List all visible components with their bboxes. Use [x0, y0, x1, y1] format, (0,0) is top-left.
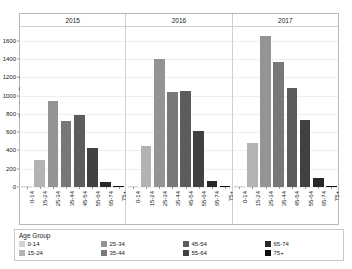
x-tick-label: 15-24	[149, 191, 155, 206]
facet-strip-row: 2015 2016 2017	[20, 14, 338, 27]
legend-item-label: 35-44	[110, 250, 125, 256]
bar[interactable]	[48, 101, 59, 187]
legend-item-label: 55-64	[192, 250, 207, 256]
x-tick-mark	[279, 187, 280, 189]
x-tick-label: 65-74	[214, 191, 220, 206]
y-tick-mark	[17, 132, 19, 133]
y-tick-label: 1200	[3, 74, 16, 80]
bar[interactable]	[273, 62, 284, 187]
y-tick-mark	[17, 59, 19, 60]
legend-item[interactable]: 45-54	[183, 241, 207, 247]
y-tick-mark	[17, 40, 19, 41]
bar[interactable]	[313, 178, 324, 187]
y-tick-mark	[17, 150, 19, 151]
y-tick-mark	[17, 187, 19, 188]
y-tick-label: 200	[6, 166, 16, 172]
x-tick-label: 15-24	[255, 191, 261, 206]
x-tick-label: 25-34	[162, 191, 168, 206]
bar[interactable]	[300, 120, 311, 187]
legend-swatch-icon	[183, 250, 189, 256]
bar[interactable]	[74, 115, 85, 187]
legend-swatch-icon	[19, 250, 25, 256]
facet-strip-label: 2017	[278, 17, 292, 24]
y-tick-mark	[17, 77, 19, 78]
y-tick-label: 400	[6, 147, 16, 153]
bar[interactable]	[34, 160, 45, 187]
x-tick-mark	[252, 187, 253, 189]
x-tick-label: 35-44	[175, 191, 181, 206]
x-tick-label: 75+	[334, 191, 340, 201]
x-tick-label: 55-64	[95, 191, 101, 206]
x-tick-mark	[292, 187, 293, 189]
x-tick-mark	[159, 187, 160, 189]
bar[interactable]	[61, 121, 72, 187]
x-tick-mark	[92, 187, 93, 189]
legend-swatch-icon	[265, 250, 271, 256]
y-tick-label: 0	[13, 184, 16, 190]
bar[interactable]	[260, 36, 271, 187]
legend-swatch-icon	[183, 241, 189, 247]
x-tick-label: 0-14	[242, 191, 248, 203]
x-tick-mark	[212, 187, 213, 189]
x-tick-mark	[186, 187, 187, 189]
legend-item[interactable]: 25-34	[101, 241, 125, 247]
facet-strip-label: 2015	[65, 17, 79, 24]
legend-item-label: 25-34	[110, 241, 125, 247]
legend-item-label: 0-14	[28, 241, 40, 247]
facet-panel-2017: 0-1415-2425-3435-4445-5455-6465-7475+	[233, 27, 338, 224]
bar[interactable]	[193, 131, 204, 187]
y-tick-label: 1400	[3, 56, 16, 62]
bar[interactable]	[180, 91, 191, 187]
x-tick-mark	[27, 187, 28, 189]
bar-group	[126, 27, 231, 187]
legend-item[interactable]: 35-44	[101, 250, 125, 256]
legend-item[interactable]: 55-64	[183, 250, 207, 256]
x-tick-mark	[146, 187, 147, 189]
bar[interactable]	[247, 143, 258, 187]
x-tick-mark	[119, 187, 120, 189]
legend-item-label: 65-74	[274, 241, 289, 247]
facet-panel-2015: 0-1415-2425-3435-4445-5455-6465-7475+	[20, 27, 126, 224]
x-tick-label: 0-14	[135, 191, 141, 203]
bar[interactable]	[87, 148, 98, 187]
x-tick-label: 25-34	[55, 191, 61, 206]
bar-group	[233, 27, 338, 187]
x-tick-mark	[318, 187, 319, 189]
bar[interactable]	[167, 92, 178, 187]
x-tick-label: 55-64	[308, 191, 314, 206]
y-tick-mark	[17, 168, 19, 169]
legend-swatch-icon	[101, 250, 107, 256]
legend-swatch-icon	[19, 241, 25, 247]
facet-panels: 0-1415-2425-3435-4445-5455-6465-7475+0-1…	[20, 27, 338, 224]
bar[interactable]	[154, 59, 165, 187]
legend-item[interactable]: 0-14	[19, 241, 40, 247]
x-tick-mark	[53, 187, 54, 189]
x-tick-mark	[305, 187, 306, 189]
x-tick-label: 65-74	[321, 191, 327, 206]
x-tick-mark	[133, 187, 134, 189]
chart-figure: 2015 2016 2017 Overdose Deaths 020040060…	[0, 0, 352, 269]
y-tick-label: 600	[6, 129, 16, 135]
x-tick-mark	[239, 187, 240, 189]
x-tick-mark	[331, 187, 332, 189]
legend-item[interactable]: 65-74	[265, 241, 289, 247]
x-tick-label: 65-74	[108, 191, 114, 206]
legend-swatch-icon	[265, 241, 271, 247]
y-axis-ticks: 02004006008001000120014001600	[0, 27, 19, 187]
x-tick-label: 45-54	[294, 191, 300, 206]
legend-item[interactable]: 75+	[265, 250, 284, 256]
legend-item-label: 45-54	[192, 241, 207, 247]
bar[interactable]	[287, 88, 298, 187]
legend-item[interactable]: 15-24	[19, 250, 43, 256]
x-tick-mark	[172, 187, 173, 189]
x-tick-label: 45-54	[188, 191, 194, 206]
x-tick-mark	[266, 187, 267, 189]
x-tick-label: 45-54	[82, 191, 88, 206]
x-tick-label: 15-24	[42, 191, 48, 206]
y-tick-mark	[17, 95, 19, 96]
facet-strip-2016: 2016	[126, 14, 232, 27]
x-tick-label: 0-14	[29, 191, 35, 203]
legend: Age Group 0-1415-2425-3435-4445-5455-646…	[14, 229, 344, 261]
x-tick-mark	[199, 187, 200, 189]
bar[interactable]	[141, 146, 152, 187]
